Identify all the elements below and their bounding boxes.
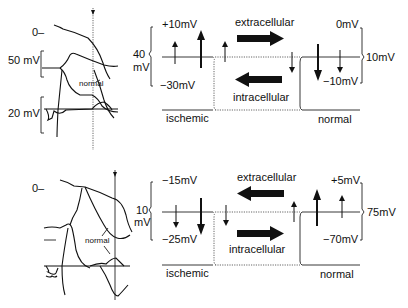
top-ischemic-bottom-value: −30mV	[160, 79, 196, 91]
bottom-timing-marker-icon	[113, 172, 117, 177]
bottom-left-bracket	[149, 182, 153, 240]
bottom-normal-top-value: +5mV	[331, 174, 361, 186]
bottom-action-potential-traces: 0– normal	[32, 170, 132, 300]
top-scale-20mv: 20 mV	[8, 107, 40, 119]
bottom-normal-annotation: normal	[85, 236, 110, 245]
trace-ecg	[46, 102, 112, 120]
top-left-scale-unit: mV	[133, 61, 150, 73]
bottom-trace-downstroke	[62, 228, 68, 295]
top-schematic: 40 mV +10mV −30mV extracellular in	[133, 16, 395, 125]
bottom-trace-ecg-right	[90, 258, 128, 296]
top-zero-label: 0–	[32, 26, 45, 38]
top-right-bracket	[360, 28, 364, 83]
bottom-ischemic-label: ischemic	[166, 267, 209, 279]
trace-upstroke	[57, 70, 62, 137]
bottom-normal-arrow-up-large	[313, 189, 321, 226]
top-ischemic-arrow-up-large	[197, 30, 205, 68]
top-scale-bracket-lower	[41, 97, 44, 133]
top-left-scale-number: 40	[133, 48, 145, 60]
bottom-ischemic-top-value: −15mV	[162, 174, 198, 186]
bottom-trace-upstroke	[70, 188, 82, 225]
bottom-ischemic-arrow-down-large	[197, 198, 205, 235]
top-normal-bottom-value: −10mV	[323, 75, 359, 87]
top-ischemic-label: ischemic	[166, 112, 209, 124]
bottom-right-boundary	[300, 212, 302, 265]
top-right-boundary	[300, 57, 302, 110]
top-ischemic-top-value: +10mV	[162, 18, 198, 30]
top-right-scale: 10mV	[366, 51, 395, 63]
top-normal-arrow-down-large	[314, 44, 322, 81]
top-panel: 0– 50 mV 20 mV normal 40 mV +10mV	[8, 8, 395, 150]
top-scale-50mv: 50 mV	[8, 54, 40, 66]
top-timing-marker-icon	[91, 10, 95, 15]
bottom-trace-normal-ap	[85, 187, 130, 239]
top-action-potential-traces: 0– 50 mV 20 mV normal	[8, 8, 118, 150]
bottom-left-scale-unit: mV	[134, 216, 151, 228]
top-normal-label: normal	[318, 113, 352, 125]
bottom-right-scale: 75mV	[367, 206, 396, 218]
bottom-extracellular-arrow-left-icon	[237, 186, 284, 201]
trace-ischemic-ap	[42, 53, 118, 68]
top-extracellular-arrow-right-icon	[237, 31, 284, 46]
bottom-extracellular-label: extracellular	[237, 171, 297, 183]
top-intracellular-label: intracellular	[233, 91, 290, 103]
top-normal-top-value: 0mV	[336, 18, 359, 30]
bottom-right-bracket	[360, 183, 364, 240]
bottom-schematic: 10 mV −15mV −25mV extracellular intracel…	[134, 171, 396, 280]
ischemia-current-diagram: 0– 50 mV 20 mV normal 40 mV +10mV	[0, 0, 408, 308]
bottom-normal-label: normal	[320, 268, 354, 280]
bottom-normal-bottom-value: −70mV	[323, 233, 359, 245]
top-left-bracket	[149, 27, 153, 86]
bottom-left-scale-number: 10	[136, 204, 148, 216]
top-extracellular-label: extracellular	[235, 16, 295, 28]
bottom-intracellular-label: intracellular	[229, 243, 286, 255]
bottom-trace-ecg-left	[46, 266, 58, 277]
bottom-panel: 0– normal 10 mV −15mV −25mV	[32, 170, 396, 300]
top-scale-bracket-upper	[41, 51, 44, 77]
trace-normal-ap	[60, 68, 118, 112]
bottom-ischemic-bottom-value: −25mV	[162, 233, 198, 245]
bottom-intracellular-arrow-right-icon	[237, 226, 284, 241]
top-left-boundary	[213, 57, 216, 110]
bottom-zero-label: 0–	[32, 182, 45, 194]
bottom-left-boundary	[213, 212, 216, 265]
top-intracellular-arrow-left-icon	[235, 72, 282, 87]
